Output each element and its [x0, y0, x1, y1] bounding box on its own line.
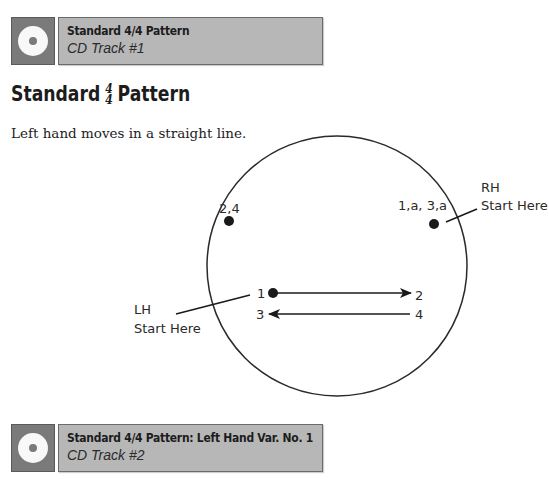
beat-2-label: 2 [415, 288, 423, 303]
right-dot [429, 219, 439, 229]
banner-title: Standard 4/4 Pattern: Left Hand Var. No.… [67, 429, 279, 446]
left-dot [224, 216, 234, 226]
beat-3-label: 3 [256, 307, 264, 322]
conducting-diagram: 2,4 1,a, 3,a RH Start Here 1 2 3 4 LH St… [0, 0, 549, 486]
drum-circle [207, 136, 467, 396]
rh-label-line1: RH [481, 180, 500, 195]
left-dot-label: 2,4 [219, 201, 240, 216]
banner-track: CD Track #2 [67, 446, 314, 464]
lh-leader-line [176, 295, 250, 314]
cd-icon-box [11, 424, 55, 472]
beat-1-label: 1 [257, 286, 265, 301]
rh-leader-line [446, 209, 477, 222]
rh-label-line2: Start Here [481, 198, 548, 213]
right-dot-label: 1,a, 3,a [398, 198, 447, 213]
banner-label-box: Standard 4/4 Pattern: Left Hand Var. No.… [58, 424, 323, 472]
lh-label-line1: LH [134, 302, 151, 317]
beat-4-label: 4 [415, 307, 423, 322]
cd-track-banner-2: Standard 4/4 Pattern: Left Hand Var. No.… [11, 424, 323, 472]
cd-icon [18, 433, 48, 463]
lh-label-line2: Start Here [134, 321, 201, 336]
